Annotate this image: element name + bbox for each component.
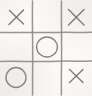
cell-bottom-center[interactable] — [33, 62, 61, 96]
cell-bottom-right[interactable] — [62, 62, 92, 96]
cell-middle-center[interactable] — [33, 33, 61, 61]
cell-middle-right[interactable] — [62, 33, 92, 61]
tic-tac-toe-board — [0, 0, 92, 96]
cell-top-center[interactable] — [33, 0, 61, 32]
cell-top-right[interactable] — [62, 0, 92, 32]
cell-top-left[interactable] — [0, 0, 32, 32]
cell-middle-left[interactable] — [0, 33, 32, 61]
cell-bottom-left[interactable] — [0, 62, 32, 96]
